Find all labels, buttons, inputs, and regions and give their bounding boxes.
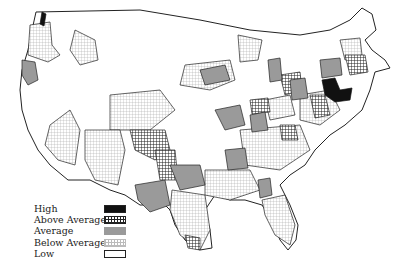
- legend-item-low: Low: [34, 248, 134, 259]
- legend-swatch-average: [104, 227, 126, 235]
- legend-item-high: High: [34, 203, 134, 214]
- legend-swatch-low: [104, 250, 126, 258]
- legend-label: High: [34, 203, 58, 214]
- legend-swatch-below-average: [104, 239, 126, 247]
- legend-swatch-high: [104, 205, 126, 213]
- map-legend: High Above Average Average Below Average…: [34, 203, 134, 259]
- legend-label: Average: [34, 225, 73, 236]
- legend-item-average: Average: [34, 225, 134, 236]
- legend-swatch-above-average: [104, 216, 126, 224]
- legend-label: Below Average: [34, 237, 106, 248]
- legend-item-below-average: Below Average: [34, 237, 134, 248]
- legend-label: Low: [34, 248, 54, 259]
- legend-label: Above Average: [34, 214, 106, 225]
- legend-item-above-average: Above Average: [34, 214, 134, 225]
